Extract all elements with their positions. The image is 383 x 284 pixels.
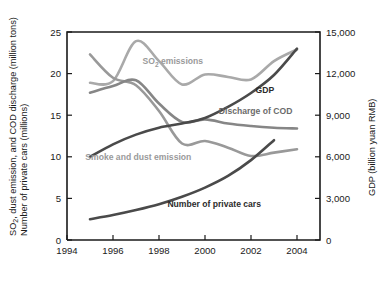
svg-text:SO2, dust emission, and COD di: SO2, dust emission, and COD discharge (m…: [8, 17, 19, 236]
annotation-gdp: GDP: [255, 85, 274, 95]
x-tick-label: 1994: [56, 245, 78, 256]
y-axis-title-rest: , dust emission, and COD discharge (mill…: [8, 17, 18, 219]
annotation-discharge-of-cod: Discharge of COD: [219, 106, 293, 116]
chart-container: 0510152025 03,0006,0009,00012,00015,000 …: [0, 0, 383, 284]
y2-tick-label: 15,000: [326, 27, 355, 38]
x-tick-label: 1996: [102, 245, 123, 256]
y-axis-title-so2: SO: [8, 223, 18, 236]
y2-tick-label: 6,000: [326, 151, 350, 162]
y-tick-label: 5: [56, 193, 61, 204]
line-chart: 0510152025 03,0006,0009,00012,00015,000 …: [0, 0, 383, 284]
x-tick-label: 2000: [194, 245, 215, 256]
y2-tick-label: 3,000: [326, 193, 350, 204]
y-tick-label: 10: [50, 151, 61, 162]
y2-tick-label: 9,000: [326, 110, 350, 121]
annotation-number-of-private-cars: Number of private cars: [167, 199, 261, 209]
x-tick-label: 1998: [148, 245, 169, 256]
x-tick-label: 2002: [240, 245, 261, 256]
y2-tick-label: 12,000: [326, 68, 355, 79]
y-tick-label: 25: [50, 27, 61, 38]
y-axis-title-right: GDP (billion yuan RMB): [367, 99, 377, 196]
y2-tick-label: 0: [326, 235, 331, 246]
annotation-so2-emissions: SO2 emissions: [143, 56, 204, 67]
y-axis-title-line2: Number of private cars (millions): [19, 104, 29, 236]
x-tick-label: 2004: [286, 245, 308, 256]
y-tick-label: 0: [56, 235, 61, 246]
y-tick-label: 20: [50, 68, 61, 79]
annotation-smoke-and-dust-emission: Smoke and dust emission: [85, 152, 191, 162]
y-tick-label: 15: [50, 110, 61, 121]
